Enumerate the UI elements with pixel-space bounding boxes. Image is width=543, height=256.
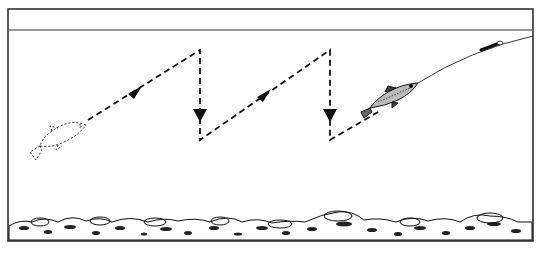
bead-icon (497, 41, 503, 45)
diagram-stage: Sink-and-draw retrieve with a baitfish l… (0, 0, 543, 256)
diagram-canvas (0, 0, 543, 256)
frame (8, 9, 533, 241)
